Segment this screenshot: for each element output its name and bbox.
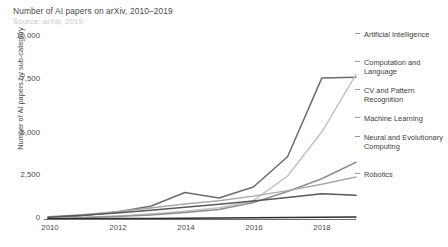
legend-item-machine-learning: Machine Learning [364, 114, 448, 123]
chart-page: Number of AI papers on arXiv, 2010–2019 … [0, 0, 448, 247]
legend-item-computation-and-language: Computation and Language [364, 58, 448, 77]
legend-dash-icon [355, 136, 360, 137]
legend-label: Machine Learning [364, 114, 423, 123]
series-layer [48, 74, 356, 218]
legend-label: Computation and Language [364, 58, 420, 76]
legend-dash-icon [355, 173, 360, 174]
legend-dash-icon [355, 33, 360, 34]
legend-dash-icon [355, 117, 360, 118]
legend-label: CV and Pattern Recognition [364, 86, 415, 104]
legend-label: Neural and Evolutionary Computing [364, 133, 443, 151]
legend-dash-icon [355, 61, 360, 62]
legend-item-cv-and-pattern-recognition: CV and Pattern Recognition [364, 86, 448, 105]
legend-label: Artificial Intelligence [364, 30, 429, 39]
legend-label: Robotics [364, 170, 393, 179]
legend-item-artificial-intelligence: Artificial Intelligence [364, 30, 448, 39]
series-line-computation-and-language [48, 74, 356, 218]
legend-item-neural-and-evolutionary-computing: Neural and Evolutionary Computing [364, 133, 448, 152]
legend-item-robotics: Robotics [364, 170, 448, 179]
legend-dash-icon [355, 89, 360, 90]
